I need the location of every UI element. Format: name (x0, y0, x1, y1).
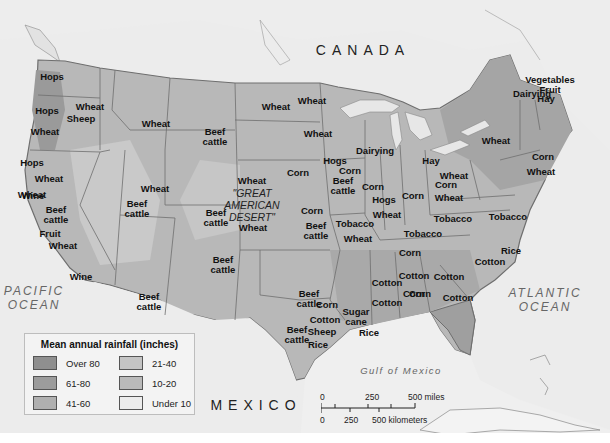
product-label: Hay (537, 94, 554, 104)
product-label: Wheat (35, 174, 64, 184)
legend-swatch (119, 356, 143, 370)
rainfall-legend: Mean annual rainfall (inches) Over 80 61… (24, 333, 195, 415)
legend-title: Mean annual rainfall (inches) (25, 339, 194, 350)
product-label: Beef cattle (125, 199, 150, 219)
product-label: Rice (308, 340, 328, 350)
product-label: Wheat (76, 102, 105, 112)
atlantic-ocean-label: ATLANTIC OCEAN (508, 286, 581, 314)
product-label: Sugar cane (343, 307, 370, 327)
product-label: Tobacco (434, 214, 472, 224)
legend-label: 10-20 (152, 378, 176, 389)
legend-swatch (33, 376, 57, 390)
product-label: Wheat (298, 96, 327, 106)
product-label: Wheat (527, 167, 556, 177)
legend-label: Over 80 (66, 358, 100, 369)
product-label: Fruit (39, 229, 60, 239)
product-label: Vegetables Fruit (525, 75, 575, 95)
product-label: Tobacco (404, 229, 442, 239)
legend-item-21-40: 21-40 (119, 356, 176, 370)
product-label: Beef cattle (203, 127, 228, 147)
product-label: Corn (362, 182, 384, 192)
product-label: Hogs (372, 195, 396, 205)
product-label: Beef cattle (204, 208, 229, 228)
product-label: Corn (402, 191, 424, 201)
product-label: Tobacco (336, 219, 374, 229)
product-label: Cotton (372, 278, 403, 288)
product-label: Hops (40, 72, 64, 82)
legend-label: 61-80 (66, 378, 90, 389)
product-label: Sheep (308, 327, 337, 337)
product-label: Wheat (435, 193, 464, 203)
product-label: Rice (501, 246, 521, 256)
product-label: Corn (301, 206, 323, 216)
product-label: Beef cattle (331, 176, 356, 196)
product-label: Beef cattle (137, 292, 162, 312)
scale-km-500: 500 kilometers (372, 415, 427, 425)
product-label: Hops (20, 158, 44, 168)
scale-miles-500: 500 miles (408, 392, 444, 402)
product-label: Wheat (238, 176, 267, 186)
legend-swatch (119, 396, 143, 410)
product-label: Corn (409, 289, 431, 299)
legend-swatch (33, 356, 57, 370)
legend-swatch (119, 376, 143, 390)
canada-label: CANADA (316, 42, 410, 58)
scale-km-250: 250 (344, 415, 358, 425)
product-label: Beef cattle (304, 221, 329, 241)
product-label: Wheat (31, 127, 60, 137)
product-label: Corn (316, 300, 338, 310)
product-label: Corn (287, 168, 309, 178)
legend-item-41-60: 41-60 (33, 396, 90, 410)
product-label: Cotton (310, 315, 341, 325)
agricultural-map: CANADA MEXICO PACIFIC OCEAN ATLANTIC OCE… (0, 0, 610, 443)
legend-label: Under 10 (152, 398, 191, 409)
product-label: Corn (435, 180, 457, 190)
product-label: Corn (532, 152, 554, 162)
product-label: Wheat (142, 119, 171, 129)
legend-item-over-80: Over 80 (33, 356, 100, 370)
product-label: Sheep (67, 114, 96, 124)
scale-km-0: 0 (320, 415, 325, 425)
product-label: Wheat (239, 223, 268, 233)
product-label: Beef cattle (285, 325, 310, 345)
legend-swatch (33, 396, 57, 410)
product-label: Wine (70, 272, 93, 282)
legend-label: 21-40 (152, 358, 176, 369)
product-label: Wheat (344, 234, 373, 244)
scale-bar: 0 250 500 miles 0 250 500 kilometers (320, 392, 510, 432)
mexico-label: MEXICO (210, 397, 301, 413)
bottom-margin (0, 433, 610, 443)
product-label: Rice (359, 328, 379, 338)
product-label: Wine (22, 191, 45, 201)
product-label: Hay (422, 156, 439, 166)
product-label: Cotton (399, 271, 430, 281)
product-label: Wheat (262, 102, 291, 112)
product-label: Cotton (434, 272, 465, 282)
gulf-of-mexico-label: Gulf of Mexico (360, 365, 442, 376)
product-label: Wheat (49, 241, 78, 251)
scale-ruler (321, 403, 431, 413)
product-label: Cotton (372, 298, 403, 308)
product-label: Corn (399, 248, 421, 258)
product-label: Wheat (141, 184, 170, 194)
product-label: Cotton (443, 293, 474, 303)
product-label: Wheat (304, 129, 333, 139)
legend-item-under-10: Under 10 (119, 396, 191, 410)
product-label: Beef cattle (211, 255, 236, 275)
product-label: Wheat (482, 136, 511, 146)
product-label: Beef cattle (44, 205, 69, 225)
product-label: Wheat (373, 210, 402, 220)
product-label: Cotton (475, 257, 506, 267)
legend-item-10-20: 10-20 (119, 376, 176, 390)
product-label: Dairying (356, 146, 394, 156)
great-american-desert-label: "GREAT AMERICAN DESERT" (224, 187, 279, 223)
scale-miles-0: 0 (320, 392, 325, 402)
product-label: Hops (35, 106, 59, 116)
legend-item-61-80: 61-80 (33, 376, 90, 390)
scale-miles-250: 250 (365, 392, 379, 402)
legend-label: 41-60 (66, 398, 90, 409)
product-label: Tobacco (489, 212, 527, 222)
pacific-ocean-label: PACIFIC OCEAN (4, 284, 64, 312)
